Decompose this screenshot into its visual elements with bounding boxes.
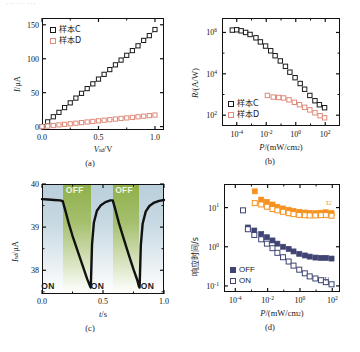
legend-label-sample-c: 样本C: [59, 24, 81, 35]
legend-item-sample-d: 样本D: [50, 35, 81, 46]
panel-b-caption: (b): [180, 156, 360, 166]
svg-text:10-2: 10-2: [261, 295, 274, 305]
legend-label-sample-c: 样本C: [237, 98, 259, 109]
svg-text:10-4: 10-4: [230, 129, 243, 139]
svg-text:104: 104: [206, 69, 217, 79]
panel-a-caption: (a): [0, 158, 180, 168]
svg-text:10-4: 10-4: [229, 295, 242, 305]
band-label-on-0: ON: [41, 281, 54, 291]
svg-text:0.5: 0.5: [98, 297, 108, 306]
open-square-black-icon: [50, 27, 56, 33]
cropped-header-text: ··· ··· ···: [6, 0, 156, 9]
svg-text:102: 102: [320, 129, 331, 139]
panel-d: 10-410-210010210110010-1 OFF ON τ2 τ1 响应…: [180, 176, 360, 352]
legend-label-off: OFF: [239, 264, 255, 275]
svg-text:100: 100: [208, 242, 219, 252]
panel-c: 0.00.51.0383940 ONOFFONOFFON Isd/μA t/s …: [0, 176, 180, 352]
band-label-on-2: ON: [91, 281, 104, 291]
panel-a: 0.00.51.0050100150 样本C 样本D I/μA Vsd/V (a…: [0, 10, 180, 175]
svg-text:50: 50: [31, 89, 39, 98]
panel-b: 10-410-2100102106104102 样本C 样本D R/(A/W) …: [180, 10, 360, 175]
legend-label-sample-d: 样本D: [59, 35, 81, 46]
panel-b-ylabel: R/(A/W): [190, 68, 200, 98]
svg-text:102: 102: [327, 295, 338, 305]
panel-c-ylabel: Isd/μA: [10, 241, 20, 262]
open-square-navy-icon: [230, 278, 236, 284]
svg-text:100: 100: [295, 295, 306, 305]
svg-text:106: 106: [206, 27, 217, 37]
panel-d-xlabel: P/(mW/cm2): [224, 308, 340, 318]
legend-label-on: ON: [239, 275, 251, 286]
panel-a-ylabel: I/μA: [12, 76, 22, 92]
svg-text:102: 102: [206, 110, 217, 120]
svg-text:100: 100: [27, 55, 39, 64]
panel-d-legend: OFF ON: [230, 264, 255, 286]
figure-container: ··· ··· ··· 0.00.51.0050100150 样本C 样本D I…: [0, 0, 360, 352]
legend-item-sample-d: 样本D: [228, 109, 259, 120]
legend-item-on: ON: [230, 275, 255, 286]
panel-c-xlabel: t/s: [42, 309, 164, 319]
filled-square-navy-icon: [230, 267, 236, 273]
legend-label-sample-d: 样本D: [237, 109, 259, 120]
band-label-on-4: ON: [141, 281, 154, 291]
tau2-annotation: τ2: [326, 198, 331, 207]
legend-item-sample-c: 样本C: [50, 24, 81, 35]
panel-b-legend: 样本C 样本D: [228, 98, 259, 120]
svg-text:39: 39: [31, 223, 39, 232]
band-label-off-1: OFF: [66, 185, 84, 195]
svg-text:1.0: 1.0: [159, 297, 169, 306]
svg-text:1.0: 1.0: [150, 133, 160, 142]
svg-text:100: 100: [290, 129, 301, 139]
svg-text:10-2: 10-2: [260, 129, 273, 139]
svg-text:0.0: 0.0: [37, 297, 47, 306]
svg-text:0.5: 0.5: [93, 133, 103, 142]
panel-b-xlabel: P/(mW/cm2): [222, 142, 340, 152]
svg-text:101: 101: [208, 202, 219, 212]
panel-d-ylabel: 响应时间/s: [189, 237, 200, 276]
svg-text:10-1: 10-1: [206, 281, 219, 291]
open-square-red-icon: [228, 112, 234, 118]
svg-text:38: 38: [31, 266, 39, 275]
panel-a-xlabel: Vsd/V: [42, 144, 164, 154]
panel-c-caption: (c): [0, 323, 180, 333]
legend-item-sample-c: 样本C: [228, 98, 259, 109]
open-square-red-icon: [50, 38, 56, 44]
tau1-annotation: τ1: [324, 274, 329, 283]
svg-text:0.0: 0.0: [37, 133, 47, 142]
open-square-black-icon: [228, 101, 234, 107]
panel-a-legend: 样本C 样本D: [50, 24, 81, 46]
panel-d-caption: (d): [180, 322, 360, 332]
svg-text:40: 40: [31, 180, 39, 189]
svg-text:150: 150: [27, 21, 39, 30]
band-label-off-3: OFF: [115, 185, 133, 195]
svg-text:0: 0: [35, 123, 39, 132]
legend-item-off: OFF: [230, 264, 255, 275]
